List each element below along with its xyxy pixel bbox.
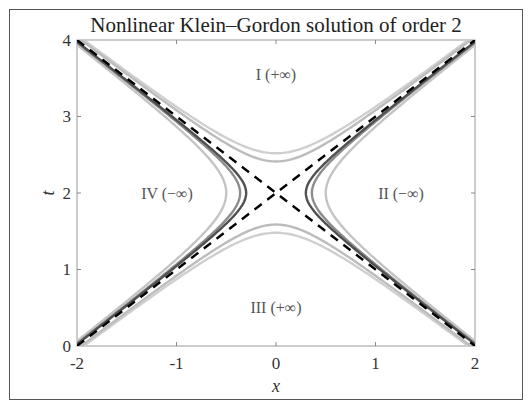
y-axis-label: t bbox=[38, 190, 58, 196]
y-tick-label: 4 bbox=[63, 31, 72, 50]
y-tick-label: 2 bbox=[63, 184, 72, 203]
y-tick-label: 3 bbox=[63, 107, 72, 126]
region-II-label: II (−∞) bbox=[378, 185, 424, 203]
x-tick-label: 0 bbox=[272, 354, 281, 373]
chart-title: Nonlinear Klein–Gordon solution of order… bbox=[90, 13, 462, 37]
y-tick-label: 0 bbox=[63, 337, 72, 356]
x-axis-label: x bbox=[271, 376, 280, 396]
region-IV-label: IV (−∞) bbox=[141, 185, 193, 203]
y-tick-labels: 0 1 2 3 4 bbox=[63, 31, 72, 356]
x-tick-label: -2 bbox=[70, 354, 84, 373]
x-tick-labels: -2 -1 0 1 2 bbox=[70, 354, 479, 373]
x-tick-label: -1 bbox=[169, 354, 183, 373]
y-tick-label: 1 bbox=[63, 260, 72, 279]
region-I-label: I (+∞) bbox=[256, 66, 296, 84]
x-tick-label: 1 bbox=[371, 354, 380, 373]
region-III-label: III (+∞) bbox=[250, 299, 301, 317]
chart: Nonlinear Klein–Gordon solution of order… bbox=[0, 0, 532, 410]
x-tick-label: 2 bbox=[471, 354, 480, 373]
